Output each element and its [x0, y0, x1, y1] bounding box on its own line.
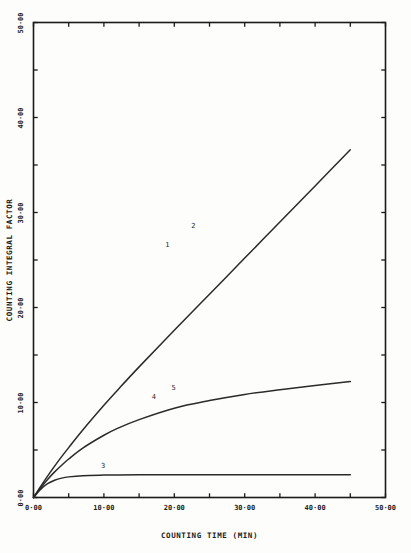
- curve-label-2: 2: [191, 222, 195, 230]
- x-tick-label: 40·00: [305, 504, 326, 512]
- x-tick-label: 0·00: [25, 504, 42, 512]
- data-curves: [34, 150, 351, 498]
- curve-label-3: 3: [101, 462, 105, 470]
- y-tick-label: 50·00: [17, 12, 25, 33]
- y-tick-label: 20·00: [17, 297, 25, 318]
- x-tick-label: 10·00: [93, 504, 114, 512]
- y-tick-label: 40·00: [17, 107, 25, 128]
- y-axis-title: COUNTING INTEGRAL FACTOR: [4, 199, 13, 322]
- curve-label-1: 1: [165, 241, 169, 249]
- x-axis-title: COUNTING TIME (MIN): [161, 531, 258, 540]
- chart-figure: 0·0010·0020·0030·0040·0050·000·0010·0020…: [0, 0, 411, 553]
- y-tick-label: 0·00: [17, 489, 25, 506]
- x-tick-label: 30·00: [234, 504, 255, 512]
- y-tick-label: 10·00: [17, 392, 25, 413]
- curve-label-4: 4: [152, 393, 156, 401]
- chart-canvas: [0, 0, 411, 553]
- x-tick-label: 50·00: [375, 504, 396, 512]
- curve-label-5: 5: [171, 384, 175, 392]
- y-tick-label: 30·00: [17, 202, 25, 223]
- x-tick-label: 20·00: [164, 504, 185, 512]
